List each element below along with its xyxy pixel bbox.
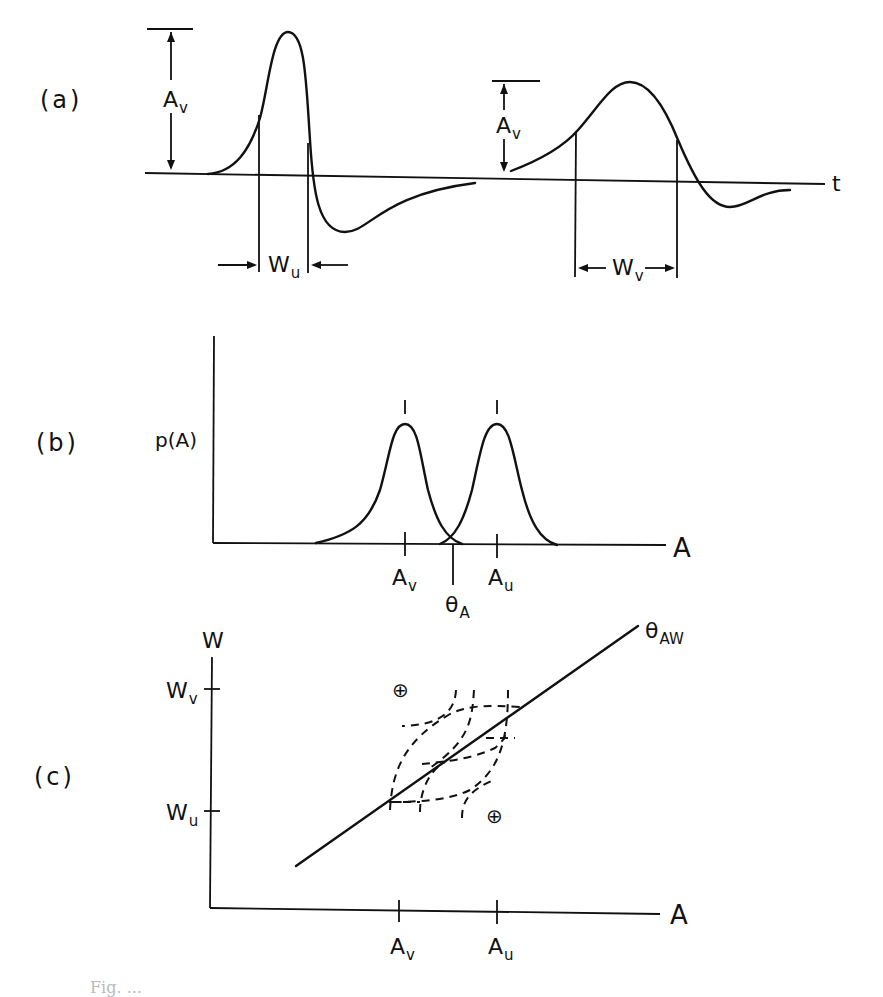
figure-caption: Fig. ... <box>90 978 142 997</box>
class-marker-lower: ⊕ <box>486 806 503 826</box>
class-marker-upper: ⊕ <box>392 680 409 700</box>
panel-a-plot <box>145 29 825 278</box>
tick-label-wu: Wu <box>166 802 198 824</box>
time-axis <box>145 173 825 184</box>
tick-label-au-c: Au <box>488 936 514 958</box>
boundary-label: θAW <box>645 620 684 642</box>
tick-label-wv: Wv <box>166 680 198 702</box>
panel-b-plot <box>213 336 666 585</box>
panel-c-plot <box>204 626 660 924</box>
panel-label-c: (c) <box>34 765 75 789</box>
arrow-up-icon <box>167 32 175 42</box>
tick-label-au: Au <box>488 567 514 589</box>
distribution-u-curve <box>440 424 557 545</box>
arrow-down-icon <box>167 160 175 170</box>
y-axis-w <box>210 657 212 908</box>
decision-boundary-line <box>296 626 638 866</box>
arrow-right-icon <box>247 261 257 269</box>
arrow-left-icon <box>311 261 321 269</box>
width-label-u: Wu <box>268 254 300 276</box>
tick-label-av-c: Av <box>390 936 415 958</box>
distribution-v-curve <box>316 424 462 544</box>
broad-spike-waveform <box>511 82 790 207</box>
x-axis-a <box>210 908 660 914</box>
x-axis-label-A-c: A <box>670 902 688 928</box>
threshold-label: θA <box>445 594 470 616</box>
panel-label-b: (b) <box>36 431 79 455</box>
width-marker-left-2 <box>575 132 576 277</box>
narrow-spike-waveform <box>208 32 475 232</box>
x-axis-label-A: A <box>673 535 691 561</box>
amplitude-label-left: Av <box>163 87 188 113</box>
y-axis-label-pA: p(A) <box>155 430 197 450</box>
tick-label-av: Av <box>392 567 417 589</box>
y-axis-label-W: W <box>202 630 224 652</box>
width-label-v: Wv <box>612 257 644 279</box>
panel-label-a: (a) <box>40 88 82 112</box>
y-axis <box>213 336 214 543</box>
amplitude-label-right: Av <box>496 113 521 139</box>
time-axis-label: t <box>832 173 841 195</box>
